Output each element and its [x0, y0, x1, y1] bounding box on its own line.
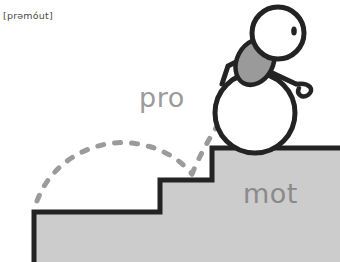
illustration-svg: [prəmóut] pro mot	[0, 0, 340, 262]
prefix-label-pro: pro	[139, 82, 185, 113]
root-label-mot: mot	[243, 178, 298, 209]
eye-dot-icon	[291, 26, 297, 35]
illustration-canvas: [prəmóut] pro mot	[0, 0, 340, 262]
foot-curl-icon	[296, 84, 311, 97]
phonetic-transcription: [prəmóut]	[3, 10, 53, 21]
